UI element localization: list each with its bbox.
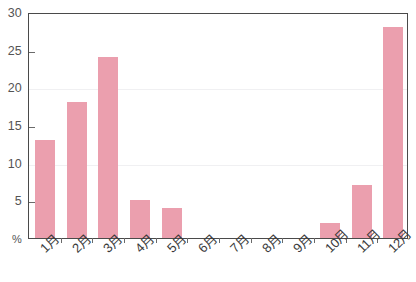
y-axis-labels: %51015202530	[0, 0, 26, 282]
y-axis-tick-label-15: 15	[8, 120, 22, 133]
y-axis-tick-label-10: 10	[8, 157, 22, 170]
bar	[98, 57, 118, 238]
y-axis-tick-label-5: 5	[15, 195, 22, 208]
y-axis-tick-label-20: 20	[8, 82, 22, 95]
bars-group	[29, 14, 407, 238]
x-axis-labels: 1月2月3月4月5月6月7月8月9月10月11月12月	[28, 241, 408, 282]
y-axis-tick-label-0: %	[12, 234, 22, 245]
bar	[67, 102, 87, 238]
bar	[383, 27, 403, 238]
plot-area	[28, 13, 408, 239]
bar	[35, 140, 55, 238]
y-axis-tick-label-25: 25	[8, 44, 22, 57]
bar-chart: %51015202530 1月2月3月4月5月6月7月8月9月10月11月12月	[0, 0, 416, 282]
y-axis-tick-label-30: 30	[8, 7, 22, 20]
